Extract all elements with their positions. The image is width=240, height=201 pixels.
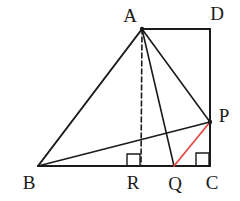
vertex-dot-p	[208, 120, 212, 124]
segment-Q-P-highlight	[174, 122, 210, 166]
geometry-canvas: ADPCQRB	[0, 0, 240, 201]
vertex-label-r: R	[127, 172, 140, 193]
vertex-dot-a	[140, 27, 144, 31]
vertex-label-p: P	[219, 105, 230, 126]
right-angle-marks-group	[127, 153, 209, 167]
segment-B-P	[38, 122, 210, 166]
vertex-label-q: Q	[168, 173, 182, 194]
geometry-figure: ADPCQRB	[0, 0, 240, 201]
right-angle-mark-at-C	[196, 153, 209, 166]
vertex-label-d: D	[210, 3, 224, 24]
vertex-label-b: B	[23, 172, 36, 193]
vertex-label-a: A	[123, 5, 137, 26]
segment-A-B	[38, 29, 142, 166]
segments-group	[38, 29, 210, 166]
vertex-label-c: C	[206, 172, 219, 193]
segment-A-R-altitude	[141, 29, 142, 166]
